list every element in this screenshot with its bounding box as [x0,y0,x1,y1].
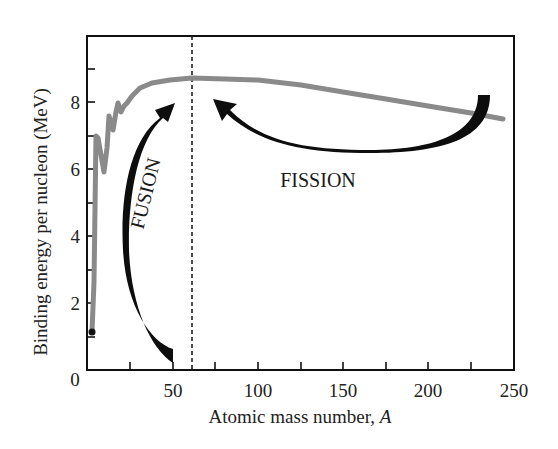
x-tick-100: 100 [244,380,273,401]
y-tick-2: 2 [71,293,81,314]
x-axis-title-text: Atomic mass number, [209,406,380,427]
y-tick-4: 4 [71,226,81,247]
y-tick-6: 6 [71,159,81,180]
x-tick-150: 150 [329,380,358,401]
y-axis-title: Binding energy per nucleon (MeV) [30,88,52,356]
binding-energy-chart: 8 6 4 2 0 50 100 150 200 250 Atomic mass… [0,0,558,449]
x-axis-variable: A [378,406,392,427]
fission-arrow [213,95,490,153]
fission-label: FISSION [280,169,356,191]
x-tick-0: 0 [70,369,80,390]
y-tick-8: 8 [71,92,81,113]
x-axis-title: Atomic mass number, A [209,406,392,427]
x-tick-labels: 0 50 100 150 200 250 [70,369,528,401]
x-tick-50: 50 [164,380,183,401]
x-axis-ticks [130,362,471,370]
y-tick-labels: 8 6 4 2 [71,92,81,314]
x-tick-250: 250 [500,380,529,401]
fusion-arrow [122,103,175,363]
binding-energy-curve [92,78,503,332]
deuterium-point-marker [89,329,96,336]
x-tick-200: 200 [414,380,443,401]
